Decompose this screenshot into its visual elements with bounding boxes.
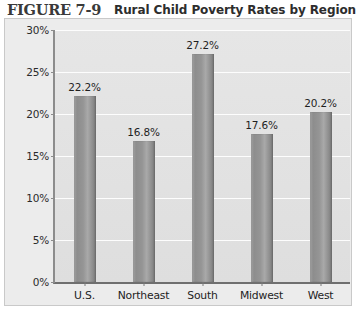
x-axis-tick-mark	[320, 282, 321, 286]
bar-value-label: 27.2%	[186, 39, 218, 51]
x-axis-tick-mark	[202, 282, 203, 286]
bar-group: 22.2%U.S.	[55, 30, 114, 282]
x-axis-tick-label: Midwest	[240, 289, 283, 302]
bar-value-label: 22.2%	[68, 81, 100, 93]
x-axis-tick-mark	[261, 282, 262, 286]
bar-group: 27.2%South	[173, 30, 232, 282]
bar: 16.8%	[133, 141, 155, 282]
bar-value-label: 20.2%	[304, 97, 336, 109]
plot-area: 0%5%10%15%20%25%30% 22.2%U.S.16.8%Northe…	[53, 30, 350, 284]
bar: 17.6%	[251, 134, 273, 282]
y-axis-tick-label: 30%	[5, 24, 49, 36]
x-axis-tick-label: Northeast	[118, 289, 170, 302]
y-axis-tick-label: 15%	[5, 150, 49, 162]
bar-group: 16.8%Northeast	[114, 30, 173, 282]
y-axis-tick-label: 5%	[5, 234, 49, 246]
x-axis-tick-label: West	[308, 289, 334, 302]
y-axis-tick-label: 10%	[5, 192, 49, 204]
x-axis-tick-mark	[84, 282, 85, 286]
x-axis-tick-label: South	[187, 289, 217, 302]
figure-number: FIGURE 7-9	[7, 2, 101, 18]
bar: 27.2%	[192, 54, 214, 282]
x-axis-tick-label: U.S.	[74, 289, 95, 302]
x-axis-tick-mark	[143, 282, 144, 286]
bar: 22.2%	[74, 96, 96, 282]
y-axis-tick-mark	[51, 282, 55, 283]
bar-group: 20.2%West	[291, 30, 350, 282]
y-axis-tick-label: 20%	[5, 108, 49, 120]
bar-value-label: 16.8%	[127, 126, 159, 138]
bar-value-label: 17.6%	[245, 119, 277, 131]
y-axis-tick-label: 0%	[5, 276, 49, 288]
bar-group: 17.6%Midwest	[232, 30, 291, 282]
figure-header: FIGURE 7-9 Rural Child Poverty Rates by …	[0, 0, 357, 18]
figure-title: Rural Child Poverty Rates by Region	[114, 2, 356, 18]
y-axis-tick-label: 25%	[5, 66, 49, 78]
bar: 20.2%	[310, 112, 332, 282]
chart-frame: 0%5%10%15%20%25%30% 22.2%U.S.16.8%Northe…	[4, 18, 352, 306]
